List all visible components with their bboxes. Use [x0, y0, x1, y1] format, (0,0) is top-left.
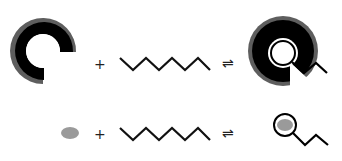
zigzag-chain-icon — [120, 128, 210, 140]
plus-operator: + — [94, 57, 106, 71]
diagram-canvas — [0, 0, 342, 161]
guest-ellipse-icon — [61, 127, 79, 139]
plus-operator: + — [94, 127, 106, 141]
host-guest-complex-icon — [248, 16, 327, 90]
equilibrium-arrow: ⇌ — [222, 56, 234, 70]
equilibrium-arrow: ⇌ — [222, 126, 234, 140]
zigzag-chain-icon — [120, 58, 210, 70]
ellipse-loop-chain-icon — [274, 114, 328, 145]
c-ring-host-icon — [10, 18, 78, 86]
